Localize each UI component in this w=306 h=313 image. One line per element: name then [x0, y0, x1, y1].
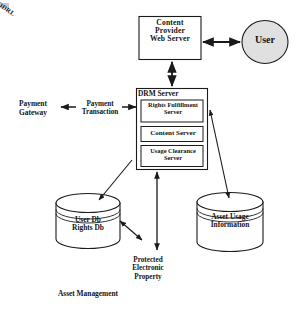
drm-architecture-diagram: Content Provider Web Server User DRM Ser… — [0, 0, 306, 313]
asset-management-caption: Asset Management — [48, 290, 128, 299]
user-ellipse — [242, 21, 288, 64]
edge-user-db-to-protected-property-odrl — [120, 221, 142, 240]
payment-transaction-edge-label: Payment Transaction — [76, 100, 124, 117]
usage-clearance-server-box — [141, 146, 203, 167]
asset-usage-information-cylinder — [197, 193, 263, 252]
content-provider-web-server-box — [139, 17, 201, 60]
edge-drm-server-to-user-db — [99, 160, 132, 200]
protected-electronic-property-label: Protected Electronic Property — [119, 256, 177, 281]
payment-gateway-label: Payment Gateway — [6, 100, 60, 117]
user-rights-db-cylinder — [56, 194, 120, 249]
